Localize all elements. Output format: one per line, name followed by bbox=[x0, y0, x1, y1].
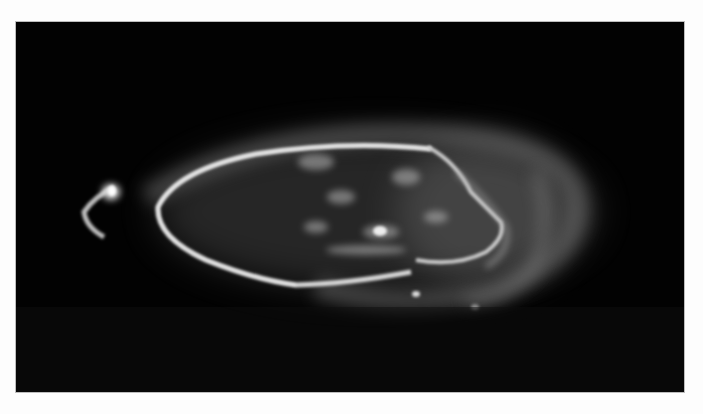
bright-spot-lower bbox=[412, 291, 420, 297]
aurora-image bbox=[15, 21, 685, 393]
left-bright-feature bbox=[84, 184, 120, 237]
aurora-graphic bbox=[16, 22, 685, 393]
bright-spot-center bbox=[373, 226, 387, 236]
